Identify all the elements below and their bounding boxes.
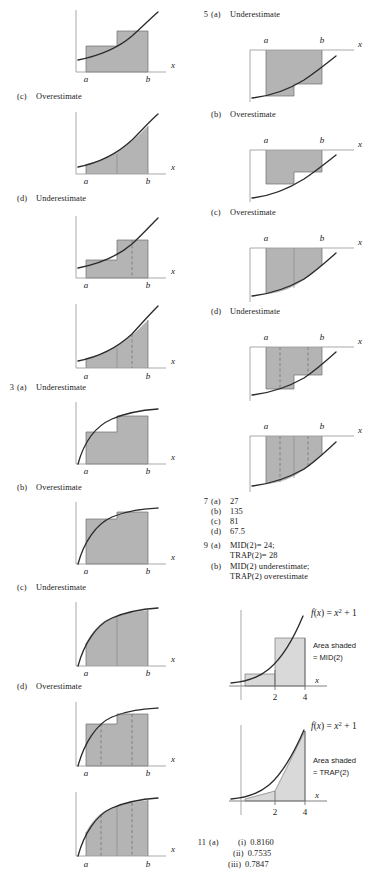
- axis-label-x: x: [170, 844, 175, 854]
- axis-label-x: x: [170, 60, 175, 70]
- tick-a: a: [84, 768, 89, 778]
- answer-7c: (c)81: [198, 517, 239, 527]
- answer-paren: (c): [208, 517, 226, 527]
- answer-9b-line1: (b)MID(2) underestimate;: [198, 562, 310, 572]
- answer-label: Underestimate: [226, 10, 280, 20]
- figure-3c-underestimate: a b x: [58, 598, 186, 678]
- tick-b: b: [320, 233, 325, 243]
- figure-1c-overestimate: a b x: [58, 6, 186, 84]
- answer-9b-line2: TRAP(2) overestimate: [198, 572, 308, 582]
- answer-7b: (b)135: [198, 507, 243, 517]
- tick-b: b: [146, 176, 151, 186]
- answer-label: Underestimate: [226, 307, 280, 317]
- chart-trap-2: 2 4 x f(x) = x2 + 1 Area shaded = TRAP(2…: [223, 715, 377, 830]
- answer-9a-line1: 9(a)MID(2)= 24;: [198, 541, 275, 551]
- tick-a: a: [264, 421, 269, 431]
- tick-b: b: [320, 35, 325, 45]
- answer-value: 0.7847: [241, 860, 269, 870]
- answer-paren: (a): [206, 838, 224, 848]
- answer-value: MID(2)= 24;: [226, 541, 275, 551]
- answer-number: 3: [4, 383, 14, 393]
- tick-2: 2: [273, 807, 278, 817]
- figure-5b-overestimate: a b x: [230, 126, 370, 206]
- tick-a: a: [264, 135, 269, 145]
- answer-paren: (b): [208, 110, 226, 120]
- axis-label-x: x: [170, 654, 175, 664]
- tick-a: a: [84, 74, 89, 84]
- figure-5a-underestimate: a b x: [230, 26, 370, 106]
- tick-b: b: [146, 280, 151, 290]
- tick-b: b: [146, 768, 151, 778]
- axis-label-x: x: [357, 237, 362, 247]
- answer-11a-iii: (iii)0.7847: [196, 860, 269, 870]
- tick-b: b: [320, 135, 325, 145]
- chart-mid-2: 2 4 x f(x) = x2 + 1 Area shaded = MID(2): [223, 600, 377, 712]
- answer-label: Underestimate: [32, 383, 86, 393]
- answer-3c: (c)Underestimate: [4, 583, 86, 593]
- axis-label-x: x: [314, 790, 319, 800]
- tick-a: a: [264, 332, 269, 342]
- figure-1d-underestimate: a b x: [58, 108, 186, 186]
- answer-paren: (b): [208, 562, 226, 572]
- axis-label-x: x: [357, 139, 362, 149]
- annotation-line1: Area shaded: [313, 756, 356, 765]
- answer-paren: (c): [14, 583, 32, 593]
- answer-11a-i: 11(a)(i)0.8160: [196, 838, 274, 848]
- axis-label-x: x: [170, 452, 175, 462]
- answer-7d: (d)67.5: [198, 527, 245, 537]
- answer-5b: (b)Overestimate: [198, 110, 276, 120]
- tick-a: a: [84, 176, 89, 186]
- tick-a: a: [84, 280, 89, 290]
- tick-a: a: [84, 466, 89, 476]
- tick-b: b: [146, 668, 151, 678]
- function-label: f(x) = x2 + 1: [311, 720, 357, 733]
- figure-3a-concave-rects: a b x: [58, 398, 186, 476]
- answer-paren: (d): [208, 307, 226, 317]
- answer-number: 7: [198, 497, 208, 507]
- answer-paren: (c): [14, 92, 32, 102]
- answer-3d: (d)Overestimate: [4, 682, 82, 692]
- tick-4: 4: [303, 807, 308, 817]
- answer-7a: 7(a)27: [198, 497, 239, 507]
- tick-a: a: [84, 371, 89, 381]
- answer-9a-line2: TRAP(2)= 28: [198, 551, 277, 561]
- figure-right-rectangles-dashed: a b x: [58, 212, 186, 290]
- answer-3b: (b)Overestimate: [4, 483, 82, 493]
- answer-3a: 3(a)Underestimate: [4, 383, 86, 393]
- answer-value: 81: [226, 517, 239, 527]
- tick-a: a: [264, 35, 269, 45]
- tick-a: a: [84, 668, 89, 678]
- answer-paren: (b): [208, 507, 226, 517]
- axis-label-x: x: [170, 162, 175, 172]
- answer-number: 11: [196, 838, 206, 848]
- tick-b: b: [146, 371, 151, 381]
- axis-label-x: x: [357, 425, 362, 435]
- figure-5c-overestimate: a b x: [230, 224, 370, 306]
- answer-value: TRAP(2) overestimate: [226, 572, 308, 582]
- annotation-line1: Area shaded: [313, 641, 356, 650]
- answer-label: Overestimate: [32, 92, 82, 102]
- axis-label-x: x: [357, 336, 362, 346]
- answer-5a: 5(a)Underestimate: [198, 10, 280, 20]
- axis-label-x: x: [170, 356, 175, 366]
- tick-b: b: [146, 566, 151, 576]
- answer-label: Overestimate: [32, 682, 82, 692]
- roman-iii: (iii): [224, 860, 241, 870]
- answer-value: MID(2) underestimate;: [226, 562, 310, 572]
- tick-b: b: [146, 859, 151, 869]
- tick-b: b: [146, 466, 151, 476]
- roman-i: (i): [224, 838, 246, 848]
- answer-paren: (a): [208, 10, 226, 20]
- answer-5c: (c)Overestimate: [198, 208, 276, 218]
- answer-value: 135: [226, 507, 243, 517]
- answer-label: Overestimate: [32, 483, 82, 493]
- axis-label-x: x: [170, 754, 175, 764]
- tick-a: a: [264, 233, 269, 243]
- figure-3d-midpoint-shaded: a b x: [58, 788, 186, 870]
- tick-a: a: [84, 566, 89, 576]
- answer-number: 5: [198, 10, 208, 20]
- annotation-line2: = TRAP(2): [313, 768, 349, 777]
- answer-paren: (a): [208, 497, 226, 507]
- answer-5d: (d)Underestimate: [198, 307, 280, 317]
- answer-value: 0.8160: [246, 838, 274, 848]
